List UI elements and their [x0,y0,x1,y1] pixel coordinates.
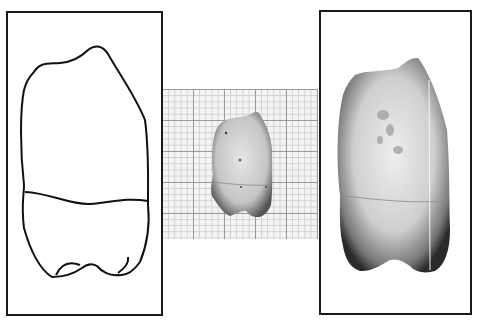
tooth-outline-drawing [21,47,149,277]
tooth-photo-enlarged [338,58,450,272]
figure-artwork [0,0,479,324]
tooth-photo-small [211,112,272,217]
